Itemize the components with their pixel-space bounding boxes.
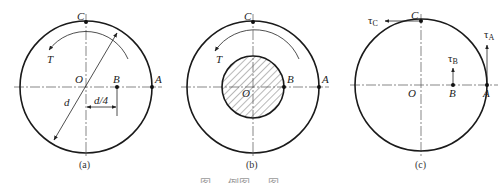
label-o: O: [75, 73, 83, 85]
torsion-diagram: T d d/4 C B A O (a) T C B A O (b): [0, 0, 504, 183]
caption-c: (c): [415, 159, 426, 171]
torque-arrow-icon: [49, 31, 128, 59]
point-c: [84, 20, 88, 24]
point-b: [282, 85, 286, 89]
torque-label: T: [216, 53, 223, 65]
diameter-label: d: [64, 96, 70, 108]
label-a: A: [482, 87, 490, 99]
panel-b: T C B A O (b): [181, 10, 329, 171]
label-o: O: [242, 87, 250, 99]
figure-caption: 图 ··· 例图 ··· 图: [200, 177, 279, 183]
panel-c: τC τA τB C B A O (c): [350, 9, 498, 171]
label-b: B: [287, 73, 294, 85]
diameter-line: [54, 33, 117, 140]
dimension-label: d/4: [94, 94, 109, 106]
label-o: O: [408, 87, 416, 99]
tau-a-label: τA: [484, 28, 494, 42]
torque-arrow-icon: [215, 30, 299, 59]
point-a: [150, 85, 154, 89]
point-c: [419, 19, 423, 23]
label-c: C: [244, 10, 252, 22]
caption-b: (b): [246, 159, 258, 171]
label-b: B: [449, 87, 456, 99]
label-a: A: [154, 73, 162, 85]
caption-a: (a): [79, 159, 90, 171]
tau-b-label: τB: [448, 52, 458, 66]
label-c: C: [77, 10, 85, 22]
label-a: A: [321, 73, 329, 85]
label-b: B: [113, 73, 120, 85]
tau-c-label: τC: [368, 14, 378, 28]
torque-label: T: [47, 53, 54, 65]
panel-a: T d d/4 C B A O (a): [14, 10, 162, 171]
point-a: [317, 85, 321, 89]
point-c: [251, 20, 255, 24]
point-b: [115, 85, 119, 89]
label-c: C: [411, 9, 419, 21]
